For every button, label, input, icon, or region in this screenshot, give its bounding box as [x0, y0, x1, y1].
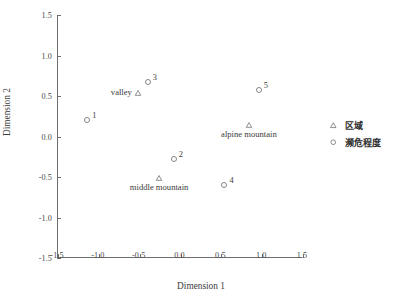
- circle-marker: [144, 79, 151, 86]
- x-tick-label: 0.0: [174, 251, 185, 260]
- legend-item[interactable]: 区域: [326, 117, 400, 134]
- group-label: valley: [111, 87, 132, 97]
- circle-marker: [255, 86, 262, 93]
- x-tick-label: 1.5: [297, 251, 308, 260]
- x-axis-label: Dimension 1: [0, 281, 402, 291]
- legend-item-label: 濒危程度: [345, 136, 381, 149]
- circle-marker: [84, 117, 91, 124]
- y-tick-mark: [57, 56, 61, 57]
- legend-item[interactable]: 濒危程度: [326, 134, 400, 151]
- legend: 区域濒危程度: [326, 117, 400, 151]
- y-tick-mark: [57, 218, 61, 219]
- triangle-marker: [246, 122, 253, 129]
- x-tick-label: 1.0: [256, 251, 267, 260]
- x-tick-label: 0.5: [215, 251, 226, 260]
- y-tick-label: -0.5: [39, 173, 52, 182]
- circle-marker: [221, 182, 228, 189]
- point-label: 3: [153, 73, 157, 82]
- y-tick-label: -1.0: [39, 213, 52, 222]
- y-tick-mark: [57, 96, 61, 97]
- x-tick-label: -0.5: [132, 251, 145, 260]
- triangle-icon: [326, 122, 340, 129]
- y-tick-label: 1.5: [41, 11, 52, 20]
- point-label: 4: [229, 176, 233, 185]
- y-tick-label: 0.0: [41, 132, 52, 141]
- scatter-plot-figure: Dimension 2 Dimension 1 -1.5-1.0-0.50.00…: [0, 0, 402, 304]
- x-tick-label: -1.5: [50, 251, 63, 260]
- circle-icon: [326, 139, 340, 146]
- y-tick-mark: [57, 177, 61, 178]
- legend-item-label: 区域: [345, 119, 363, 132]
- circle-marker: [170, 156, 177, 163]
- y-tick-mark: [57, 137, 61, 138]
- y-tick-label: 0.5: [41, 92, 52, 101]
- group-label: alpine mountain: [221, 129, 277, 139]
- y-tick-label: -1.5: [39, 254, 52, 263]
- point-label: 1: [92, 111, 96, 120]
- y-tick-mark: [57, 15, 61, 16]
- x-tick-label: -1.0: [91, 251, 104, 260]
- y-tick-label: 1.0: [41, 51, 52, 60]
- group-label: middle mountain: [130, 182, 188, 192]
- y-axis-label: Dimension 2: [2, 88, 12, 136]
- point-label: 2: [179, 150, 183, 159]
- triangle-marker: [135, 90, 142, 97]
- point-label: 5: [264, 80, 268, 89]
- triangle-marker: [156, 175, 163, 182]
